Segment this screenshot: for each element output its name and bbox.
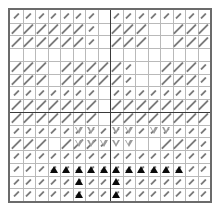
dash-short-glyph	[76, 128, 82, 134]
gridline-horizontal	[10, 125, 210, 126]
dash-long-glyph	[61, 100, 72, 111]
dash-short-glyph	[51, 166, 57, 172]
dash-long-glyph	[173, 113, 184, 124]
dash-short-glyph	[151, 191, 157, 197]
dash-short-glyph	[76, 89, 82, 95]
dash-short-glyph	[88, 179, 94, 185]
dash-long-glyph	[73, 100, 84, 111]
dash-short-glyph	[201, 77, 207, 83]
gridline-vertical	[123, 10, 124, 201]
grid-layer	[10, 10, 210, 201]
gridline-vertical	[98, 10, 99, 201]
dash-long-glyph	[36, 62, 47, 73]
gridline-horizontal	[10, 150, 210, 151]
dash-short-glyph	[163, 153, 169, 159]
dash-short-glyph	[101, 128, 107, 134]
dash-long-glyph	[86, 100, 97, 111]
dash-short-glyph	[26, 89, 32, 95]
gridline-horizontal	[10, 35, 210, 36]
triangle-up-filled-marker	[87, 166, 95, 173]
dash-short-glyph	[201, 191, 207, 197]
dash-short-glyph	[26, 191, 32, 197]
dash-long-glyph	[161, 138, 172, 149]
triangle-down-open-marker	[100, 140, 108, 147]
dash-short-glyph	[51, 191, 57, 197]
triangle-up-filled-marker	[175, 166, 183, 173]
dash-long-glyph	[111, 75, 122, 86]
dash-short-glyph	[13, 153, 19, 159]
dash-long-glyph	[23, 138, 34, 149]
dash-short-glyph	[101, 179, 107, 185]
dash-short-glyph	[113, 13, 119, 19]
dash-long-glyph	[73, 113, 84, 124]
dash-short-glyph	[13, 128, 19, 134]
dash-short-glyph	[188, 153, 194, 159]
dash-long-glyph	[173, 62, 184, 73]
dash-long-glyph	[136, 36, 147, 47]
dash-short-glyph	[13, 166, 19, 172]
dash-long-glyph	[11, 100, 22, 111]
dash-short-glyph	[151, 166, 157, 172]
dash-short-glyph	[201, 13, 207, 19]
dash-long-glyph	[23, 113, 34, 124]
dash-long-glyph	[198, 100, 209, 111]
dash-long-glyph	[73, 24, 84, 35]
gridline-horizontal	[10, 163, 210, 164]
dash-long-glyph	[173, 36, 184, 47]
dash-short-glyph	[26, 166, 32, 172]
dash-short-glyph	[126, 89, 132, 95]
triangle-up-filled-marker	[112, 166, 120, 173]
dash-short-glyph	[113, 166, 119, 172]
gridline-horizontal	[10, 176, 210, 177]
dash-short-glyph	[138, 153, 144, 159]
dash-long-glyph	[111, 62, 122, 73]
dash-short-glyph	[63, 128, 69, 134]
dash-long-glyph	[111, 113, 122, 124]
dash-short-glyph	[76, 179, 82, 185]
dash-short-glyph	[113, 89, 119, 95]
dash-long-glyph	[11, 113, 22, 124]
gridline-vertical	[148, 10, 149, 201]
figure-canvas	[0, 0, 222, 210]
dash-short-glyph	[76, 166, 82, 172]
dash-short-glyph	[63, 153, 69, 159]
dash-short-glyph	[163, 179, 169, 185]
dash-long-glyph	[186, 62, 197, 73]
dash-short-glyph	[51, 13, 57, 19]
dash-long-glyph	[186, 100, 197, 111]
dash-long-glyph	[36, 75, 47, 86]
dash-long-glyph	[36, 36, 47, 47]
dash-long-glyph	[11, 36, 22, 47]
dash-short-glyph	[76, 191, 82, 197]
dash-short-glyph	[126, 179, 132, 185]
gridline-vertical	[110, 10, 111, 201]
dash-long-glyph	[186, 113, 197, 124]
gridline-vertical	[48, 10, 49, 201]
gridline-horizontal	[10, 48, 210, 49]
dash-short-glyph	[51, 153, 57, 159]
dash-short-glyph	[188, 179, 194, 185]
dash-long-glyph	[11, 138, 22, 149]
triangle-down-open-marker	[125, 140, 133, 147]
gridline-vertical	[73, 10, 74, 201]
dash-short-glyph	[101, 166, 107, 172]
dash-short-glyph	[126, 128, 132, 134]
dash-long-glyph	[148, 100, 159, 111]
dash-long-glyph	[186, 75, 197, 86]
dash-long-glyph	[48, 113, 59, 124]
dash-short-glyph	[13, 13, 19, 19]
dash-short-glyph	[138, 89, 144, 95]
dash-short-glyph	[138, 179, 144, 185]
triangle-down-open-marker	[75, 140, 83, 147]
dash-long-glyph	[123, 100, 134, 111]
dash-short-glyph	[13, 179, 19, 185]
dash-short-glyph	[51, 128, 57, 134]
triangle-up-filled-marker	[62, 166, 70, 173]
dash-short-glyph	[176, 166, 182, 172]
dash-short-glyph	[176, 128, 182, 134]
dash-long-glyph	[73, 75, 84, 86]
triangle-up-filled-marker	[50, 166, 58, 173]
dash-short-glyph	[63, 13, 69, 19]
triangle-down-open-marker	[112, 140, 120, 147]
dash-long-glyph	[123, 36, 134, 47]
